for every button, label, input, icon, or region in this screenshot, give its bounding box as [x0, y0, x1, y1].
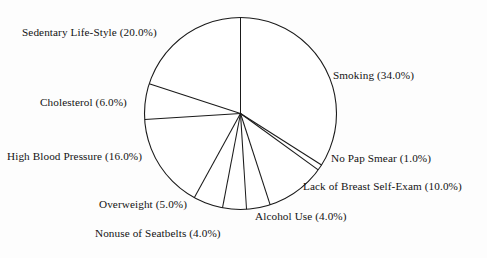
- pie-label-no-pap-smear: No Pap Smear (1.0%): [331, 152, 431, 165]
- pie-label-smoking: Smoking (34.0%): [333, 69, 414, 82]
- pie-label-alcohol-use: Alcohol Use (4.0%): [255, 210, 347, 223]
- pie-label-sedentary-life-style: Sedentary Life-Style (20.0%): [22, 26, 157, 39]
- pie-label-overweight: Overweight (5.0%): [99, 198, 187, 211]
- pie-label-cholesterol: Cholesterol (6.0%): [40, 96, 127, 109]
- pie-label-high-blood-pressure: High Blood Pressure (16.0%): [7, 150, 142, 163]
- pie-label-lack-of-breast-self-exam: Lack of Breast Self-Exam (10.0%): [303, 180, 462, 193]
- pie-label-nonuse-of-seatbelts: Nonuse of Seatbelts (4.0%): [95, 227, 221, 240]
- pie-chart-figure: Sedentary Life-Style (20.0%) Cholesterol…: [0, 0, 487, 258]
